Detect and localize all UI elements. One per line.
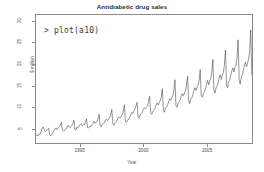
console-command-overlay: > plot(a10) (44, 26, 99, 35)
y-tick-label-text: 25 (17, 39, 22, 44)
x-tick-label: 2005 (192, 148, 222, 153)
y-tick-label-text: 10 (17, 104, 22, 109)
y-tick-label: 25 (0, 39, 22, 44)
y-tick-label-text: 15 (17, 82, 22, 87)
y-tick-label: 5 (0, 126, 22, 131)
y-tick-label-text: 20 (17, 61, 22, 66)
x-tick-mark (143, 144, 144, 147)
y-tick-label: 15 (0, 83, 22, 88)
x-tick-mark (80, 144, 81, 147)
x-tick-label: 1995 (65, 148, 95, 153)
page-title: Antidiabetic drug sales (0, 3, 264, 10)
plot-screenshot: Antidiabetic drug sales $ million Year 5… (0, 0, 264, 172)
x-tick-mark (207, 144, 208, 147)
series-polyline (36, 23, 252, 136)
x-tick-label: 2000 (128, 148, 158, 153)
y-tick-label: 30 (0, 18, 22, 23)
x-axis-label: Year (0, 160, 264, 165)
y-tick-label: 10 (0, 104, 22, 109)
y-tick-label: 20 (0, 61, 22, 66)
y-tick-label-text: 30 (17, 17, 22, 22)
y-tick-label-text: 5 (18, 127, 23, 130)
